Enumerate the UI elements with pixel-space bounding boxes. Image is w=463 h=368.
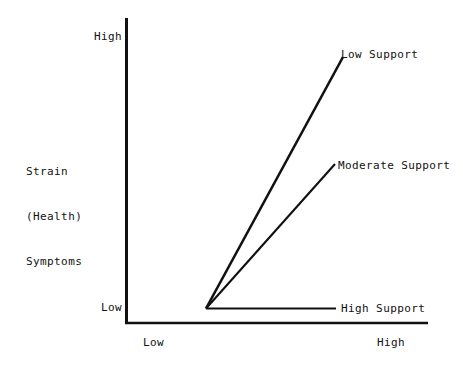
y-axis-tick-label-low: Low xyxy=(60,300,122,315)
x-axis-tick-label-high: High xyxy=(377,335,405,350)
y-axis-tick-label-high: High xyxy=(60,29,122,44)
series-label-moderate-support: Moderate Support xyxy=(338,158,450,173)
y-axis-title-line-3: Symptoms xyxy=(26,254,82,269)
y-axis-title: Strain (Health) Symptoms xyxy=(26,134,82,299)
x-axis-tick-label-low: Low xyxy=(143,335,164,350)
series-label-high-support: High Support xyxy=(341,301,425,316)
y-axis-title-line-2: (Health) xyxy=(26,209,82,224)
y-axis-title-line-1: Strain xyxy=(26,164,82,179)
chart-figure: High Low Strain (Health) Symptoms Low Hi… xyxy=(0,0,463,368)
series-line-low-support xyxy=(206,57,343,309)
series-label-low-support: Low Support xyxy=(341,47,418,62)
series-line-moderate-support xyxy=(206,164,335,309)
